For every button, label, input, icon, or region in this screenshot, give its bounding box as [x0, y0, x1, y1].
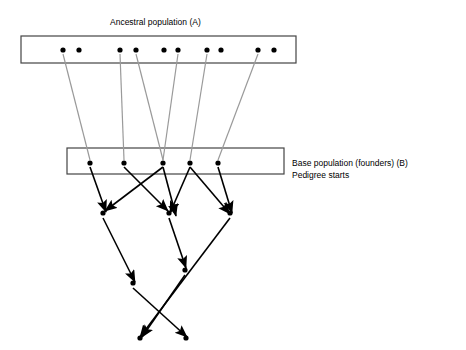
ancestral-link-5 — [218, 54, 258, 160]
descendant-individual-6 — [183, 335, 188, 340]
ancestral-link-2 — [136, 54, 163, 160]
base-population-box — [67, 148, 284, 174]
founder-individual-1 — [121, 160, 126, 165]
ancestral-individual-7 — [218, 47, 223, 52]
pedigree-arrow-10 — [133, 288, 187, 337]
ancestral-population-label: Ancestral population (A) — [110, 17, 201, 28]
ancestral-individual-3 — [133, 47, 138, 52]
descendant-individual-0 — [100, 210, 105, 215]
descendant-individual-3 — [130, 280, 135, 285]
descendant-individual-4 — [182, 267, 187, 272]
ancestral-link-0 — [63, 54, 90, 160]
ancestral-individual-4 — [161, 47, 166, 52]
ancestral-individual-0 — [60, 47, 65, 52]
pedigree-diagram-figure: Ancestral population (A) Base population… — [0, 0, 466, 350]
diagram-canvas — [0, 0, 466, 350]
pedigree-arrow-7 — [103, 218, 135, 282]
founder-individual-2 — [160, 160, 165, 165]
pedigree-starts-label: Pedigree starts — [292, 170, 349, 181]
ancestral-individual-5 — [175, 47, 180, 52]
ancestral-individual-9 — [271, 47, 276, 52]
ancestral-individual-8 — [255, 47, 260, 52]
founder-individual-4 — [215, 160, 220, 165]
pedigree-arrow-11 — [142, 275, 185, 337]
descendant-individual-1 — [166, 210, 171, 215]
ancestral-individual-1 — [76, 47, 81, 52]
ancestral-to-founder-links — [63, 54, 258, 160]
descendant-individual-2 — [227, 210, 232, 215]
ancestral-link-3 — [163, 54, 178, 160]
founder-individual-0 — [87, 160, 92, 165]
population-boxes — [21, 36, 296, 174]
descendant-individual-5 — [137, 335, 142, 340]
pedigree-arrows — [90, 167, 232, 337]
base-population-label: Base population (founders) (B) — [292, 158, 408, 169]
ancestral-link-1 — [120, 54, 124, 160]
ancestral-individual-6 — [204, 47, 209, 52]
founder-individual-3 — [187, 160, 192, 165]
ancestral-individual-2 — [117, 47, 122, 52]
ancestral-link-4 — [190, 54, 207, 160]
pedigree-arrow-8 — [169, 218, 186, 268]
